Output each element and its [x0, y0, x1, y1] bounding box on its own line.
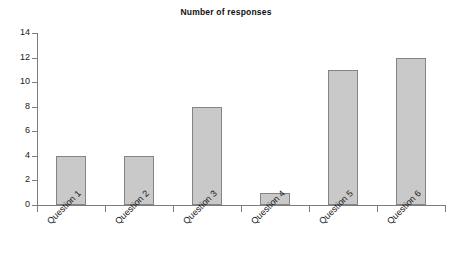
y-axis-tick-label: 14	[4, 28, 30, 37]
x-axis-tick	[377, 206, 378, 212]
y-axis-tick-label-text: 14	[8, 28, 30, 37]
y-axis-tick-label-text: 8	[8, 102, 30, 111]
bar	[396, 58, 426, 205]
x-axis-tick	[445, 206, 446, 212]
y-axis-tick	[32, 131, 38, 132]
y-axis-tick-label-text: 4	[8, 151, 30, 160]
y-axis-tick-label: 10	[4, 77, 30, 86]
y-axis-tick	[32, 180, 38, 181]
y-axis-tick-label: 2	[4, 175, 30, 184]
bar	[192, 107, 222, 205]
x-axis-tick	[37, 206, 38, 212]
chart-title: Number of responses	[0, 7, 452, 17]
y-axis-tick-label: 12	[4, 53, 30, 62]
y-axis-tick-label: 8	[4, 102, 30, 111]
y-axis-tick	[32, 82, 38, 83]
y-axis-tick	[32, 156, 38, 157]
y-axis-tick-label: 6	[4, 126, 30, 135]
x-axis-tick	[309, 206, 310, 212]
x-axis-tick	[241, 206, 242, 212]
y-axis-tick	[32, 58, 38, 59]
bar-chart: Number of responses 02468101214 Question…	[0, 0, 452, 268]
y-axis-tick	[32, 33, 38, 34]
y-axis-tick-label-text: 6	[8, 126, 30, 135]
y-axis-tick	[32, 107, 38, 108]
y-axis-tick-label-text: 10	[8, 77, 30, 86]
x-axis-tick	[105, 206, 106, 212]
y-axis-tick-label: 4	[4, 151, 30, 160]
y-axis-tick-label-text: 12	[8, 53, 30, 62]
y-axis-tick-label-text: 2	[8, 175, 30, 184]
x-axis-tick	[173, 206, 174, 212]
bar	[328, 70, 358, 205]
y-axis-tick-label-text: 0	[8, 200, 30, 209]
y-axis-tick-label: 0	[4, 200, 30, 209]
